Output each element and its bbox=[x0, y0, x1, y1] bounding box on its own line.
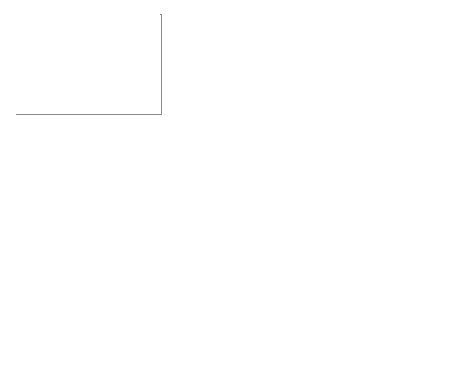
top-level-workflow-frame bbox=[16, 14, 160, 114]
